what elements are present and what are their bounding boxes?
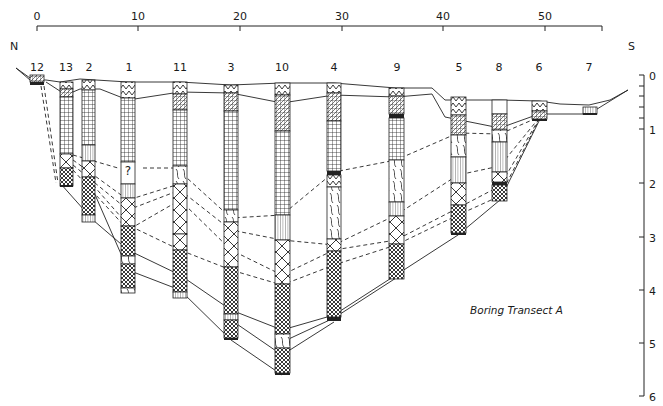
north-label: N — [10, 40, 18, 53]
distance-tick-40: 40 — [436, 11, 450, 22]
boring-5 — [451, 97, 466, 235]
boring-8 — [492, 100, 507, 201]
boring-label-1: 1 — [126, 62, 133, 73]
boring-label-5: 5 — [456, 62, 463, 73]
boring-label-11: 11 — [173, 62, 187, 73]
distance-tick-50: 50 — [538, 11, 552, 22]
boring-label-12: 12 — [30, 62, 44, 73]
distance-tick-10: 10 — [131, 11, 145, 22]
boring-12 — [30, 75, 44, 85]
depth-tick-4: 4 — [649, 286, 656, 297]
boring-label-10: 10 — [275, 62, 289, 73]
boring-10 — [275, 83, 290, 375]
boring-label-7: 7 — [586, 62, 593, 73]
distance-tick-30: 30 — [335, 11, 349, 22]
boring-1 — [121, 82, 135, 293]
boring-label-8: 8 — [496, 62, 503, 73]
depth-tick-2: 2 — [649, 179, 656, 190]
boring-4 — [327, 83, 341, 321]
depth-tick-3: 3 — [649, 233, 656, 244]
south-label: S — [628, 40, 635, 53]
boring-6 — [532, 101, 547, 121]
boring-11 — [173, 82, 187, 298]
distance-tick-20: 20 — [233, 11, 247, 22]
depth-tick-0: 0 — [649, 71, 656, 82]
boring-7 — [583, 107, 597, 115]
depth-tick-6: 6 — [649, 392, 656, 403]
distance-scale — [37, 26, 602, 31]
distance-tick-0: 0 — [34, 11, 41, 22]
boring-2 — [82, 80, 95, 222]
uncertain-marker: ? — [125, 166, 131, 177]
depth-scale — [639, 75, 644, 396]
boring-9 — [389, 88, 404, 279]
boring-label-6: 6 — [536, 62, 543, 73]
boring-3 — [224, 85, 238, 340]
boring-label-9: 9 — [394, 62, 401, 73]
boring-label-3: 3 — [228, 62, 235, 73]
boring-label-2: 2 — [86, 62, 93, 73]
depth-tick-1: 1 — [649, 125, 656, 136]
boring-label-4: 4 — [331, 62, 338, 73]
depth-tick-5: 5 — [649, 339, 656, 350]
boring-13 — [60, 82, 73, 187]
boring-label-13: 13 — [59, 62, 73, 73]
diagram-title: Boring Transect A — [470, 304, 563, 316]
